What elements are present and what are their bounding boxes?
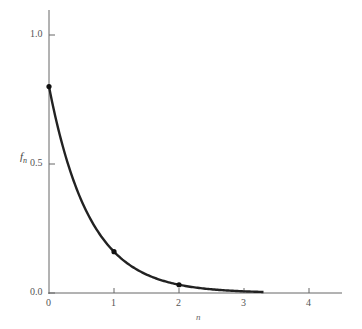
x-tick-label: 3 — [241, 297, 246, 308]
decay-curve — [49, 87, 264, 292]
data-point — [111, 249, 116, 254]
x-tick-label: 4 — [306, 297, 311, 308]
y-tick-label: 0.5 — [30, 157, 43, 168]
x-tick-label: 1 — [111, 297, 116, 308]
y-tick-label: 1.0 — [30, 28, 43, 39]
decay-chart — [0, 0, 362, 329]
data-point — [176, 282, 181, 287]
y-ticks — [49, 35, 55, 293]
data-point — [46, 84, 51, 89]
x-tick-label: 2 — [176, 297, 181, 308]
data-markers — [46, 84, 181, 287]
y-tick-label: 0.0 — [30, 286, 43, 297]
x-axis-label: n — [196, 312, 201, 322]
x-tick-label: 0 — [46, 297, 51, 308]
y-axis-label: fn — [20, 150, 27, 165]
